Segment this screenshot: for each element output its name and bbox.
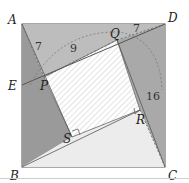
square-diagram: A D B C E P Q R S 7 9 7 16 <box>0 0 189 183</box>
label-A: A <box>7 13 17 27</box>
label-S: S <box>63 132 71 146</box>
label-E: E <box>7 79 17 93</box>
measure-RC: 16 <box>146 90 160 103</box>
label-P: P <box>39 79 49 93</box>
label-Q: Q <box>110 27 120 41</box>
label-C: C <box>168 169 177 183</box>
label-B: B <box>9 169 19 183</box>
label-R: R <box>135 113 145 127</box>
label-D: D <box>167 11 178 25</box>
measure-PQ: 9 <box>70 42 77 55</box>
measure-QD: 7 <box>133 22 140 35</box>
measure-AP: 7 <box>35 40 42 53</box>
divider <box>0 178 189 179</box>
geometry-figure: A D B C E P Q R S 7 9 7 16 <box>0 0 189 183</box>
